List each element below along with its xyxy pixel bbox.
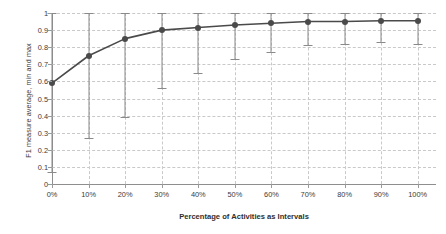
x-tick-mark <box>52 184 53 188</box>
x-tick-label: 50% <box>227 190 242 199</box>
plot-area: 0%10%20%30%40%50%60%70%80%90%100% 00.10.… <box>52 13 436 184</box>
y-tick-label: 0 <box>44 180 48 189</box>
x-tick-label: 70% <box>301 190 316 199</box>
x-tick-mark <box>308 184 309 188</box>
x-tick-label: 40% <box>191 190 206 199</box>
y-tick-mark <box>48 150 52 151</box>
y-axis-title: F1 measure average, min and max <box>24 21 33 181</box>
x-tick-mark <box>198 184 199 188</box>
x-tick-mark <box>162 184 163 188</box>
y-tick-mark <box>48 167 52 168</box>
y-tick-label: 0.1 <box>38 162 48 171</box>
y-tick-label: 0.6 <box>38 77 48 86</box>
x-tick-label: 0% <box>47 190 58 199</box>
x-axis-line <box>52 184 436 185</box>
y-tick-label: 0.7 <box>38 60 48 69</box>
x-tick-label: 20% <box>118 190 133 199</box>
x-tick-label: 30% <box>154 190 169 199</box>
data-point-marker <box>122 36 128 42</box>
y-tick-label: 0.4 <box>38 111 48 120</box>
y-tick-label: 1 <box>44 9 48 18</box>
y-tick-mark <box>48 116 52 117</box>
x-tick-mark <box>89 184 90 188</box>
data-point-marker <box>305 19 311 25</box>
x-tick-label: 10% <box>81 190 96 199</box>
x-axis-title: Percentage of Activities as Intervals <box>52 212 436 221</box>
data-point-marker <box>159 27 165 33</box>
y-tick-mark <box>48 99 52 100</box>
y-tick-mark <box>48 133 52 134</box>
data-point-marker <box>342 19 348 25</box>
x-tick-mark <box>418 184 419 188</box>
data-point-marker <box>378 18 384 24</box>
y-tick-mark <box>48 64 52 65</box>
x-tick-mark <box>381 184 382 188</box>
y-tick-mark <box>48 13 52 14</box>
data-point-marker <box>86 53 92 59</box>
y-tick-mark <box>48 30 52 31</box>
x-tick-mark <box>271 184 272 188</box>
x-tick-label: 80% <box>337 190 352 199</box>
y-tick-label: 0.9 <box>38 26 48 35</box>
y-tick-label: 0.5 <box>38 94 48 103</box>
x-tick-mark <box>125 184 126 188</box>
y-tick-mark <box>48 47 52 48</box>
data-point-marker <box>195 25 201 31</box>
y-tick-label: 0.8 <box>38 43 48 52</box>
x-tick-label: 60% <box>264 190 279 199</box>
y-tick-label: 0.3 <box>38 128 48 137</box>
x-tick-mark <box>235 184 236 188</box>
chart-container: F1 measure average, min and max Percenta… <box>0 0 446 234</box>
data-point-marker <box>415 18 421 24</box>
x-tick-label: 90% <box>374 190 389 199</box>
x-tick-label: 100% <box>408 190 427 199</box>
y-tick-label: 0.2 <box>38 145 48 154</box>
x-tick-mark <box>345 184 346 188</box>
series-line <box>52 13 436 184</box>
y-tick-mark <box>48 81 52 82</box>
y-tick-mark <box>48 184 52 185</box>
data-point-marker <box>232 22 238 28</box>
